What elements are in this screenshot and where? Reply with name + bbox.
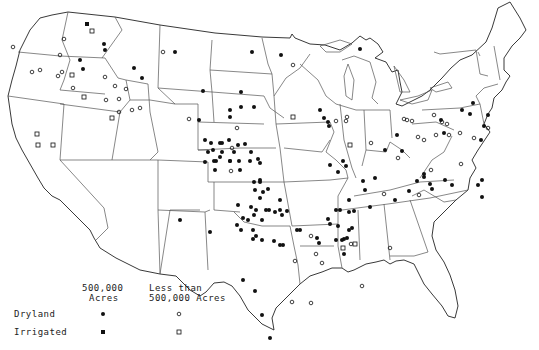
dryland-large-marker-icon [328, 163, 332, 167]
dryland-large-marker-icon [422, 172, 426, 176]
dryland-large-marker-icon [361, 179, 365, 183]
irrigated-small-marker-icon [348, 143, 352, 147]
dryland-small-marker-icon [360, 284, 364, 288]
dryland-small-marker-icon [434, 133, 438, 137]
dryland-large-marker-icon [278, 198, 282, 202]
dryland-large-marker-icon [350, 226, 354, 230]
dryland-small-marker-icon [417, 193, 421, 197]
dryland-large-marker-icon [327, 124, 331, 128]
dryland-small-marker-icon [320, 261, 324, 265]
dryland-large-marker-icon [326, 217, 330, 221]
legend-filled-square-icon [101, 330, 105, 334]
dryland-large-marker-icon [347, 210, 351, 214]
legend-filled-circle-icon [101, 312, 105, 316]
dryland-small-marker-icon [382, 192, 386, 196]
dryland-small-marker-icon [396, 156, 400, 160]
dryland-large-marker-icon [336, 224, 340, 228]
dryland-large-marker-icon [334, 208, 338, 212]
dryland-small-marker-icon [445, 122, 449, 126]
dryland-large-marker-icon [415, 179, 419, 183]
irrigated-small-marker-icon [353, 242, 357, 246]
dryland-large-marker-icon [260, 313, 264, 317]
dryland-small-marker-icon [416, 135, 420, 139]
dryland-small-marker-icon [472, 136, 476, 140]
dryland-small-marker-icon [309, 301, 313, 305]
dryland-large-marker-icon [264, 208, 268, 212]
dryland-large-marker-icon [281, 243, 285, 247]
dryland-large-marker-icon [342, 252, 346, 256]
dryland-large-marker-icon [261, 190, 265, 194]
dryland-small-marker-icon [290, 300, 294, 304]
dryland-large-marker-icon [368, 205, 372, 209]
dryland-small-marker-icon [458, 131, 462, 135]
dryland-large-marker-icon [443, 178, 447, 182]
dryland-small-marker-icon [345, 115, 349, 119]
dryland-small-marker-icon [291, 63, 295, 67]
legend-symbols [0, 0, 260, 350]
legend-open-circle-icon [177, 312, 181, 316]
dryland-large-marker-icon [471, 101, 475, 105]
dryland-small-marker-icon [293, 259, 297, 263]
dryland-large-marker-icon [328, 222, 332, 226]
dryland-large-marker-icon [460, 108, 464, 112]
dryland-large-marker-icon [476, 183, 480, 187]
dryland-large-marker-icon [266, 187, 270, 191]
legend: 500,000 Acres Less than 500,000 Acres Dr… [0, 0, 260, 350]
dryland-large-marker-icon [468, 112, 472, 116]
dryland-large-marker-icon [272, 239, 276, 243]
dryland-large-marker-icon [260, 218, 264, 222]
dryland-large-marker-icon [400, 149, 404, 153]
irrigated-small-marker-icon [291, 115, 295, 119]
dryland-large-marker-icon [317, 241, 321, 245]
dryland-large-marker-icon [393, 198, 397, 202]
dryland-small-marker-icon [429, 168, 433, 172]
dryland-small-marker-icon [349, 242, 353, 246]
dryland-large-marker-icon [326, 120, 330, 124]
dryland-small-marker-icon [334, 119, 338, 123]
dryland-small-marker-icon [369, 141, 373, 145]
dryland-large-marker-icon [363, 188, 367, 192]
dryland-large-marker-icon [268, 336, 272, 340]
dryland-small-marker-icon [344, 119, 348, 123]
dryland-small-marker-icon [447, 133, 451, 137]
dryland-large-marker-icon [383, 148, 387, 152]
dryland-large-marker-icon [352, 209, 356, 213]
dryland-small-marker-icon [314, 252, 318, 256]
dryland-small-marker-icon [410, 119, 414, 123]
dryland-small-marker-icon [432, 113, 436, 117]
dryland-large-marker-icon [334, 238, 338, 242]
dryland-large-marker-icon [428, 182, 432, 186]
dryland-large-marker-icon [482, 124, 486, 128]
legend-open-square-icon [177, 330, 181, 334]
dryland-large-marker-icon [280, 213, 284, 217]
dryland-large-marker-icon [315, 236, 319, 240]
dryland-large-marker-icon [322, 116, 326, 120]
dryland-large-marker-icon [373, 176, 377, 180]
dryland-large-marker-icon [395, 133, 399, 137]
dryland-large-marker-icon [318, 108, 322, 112]
dryland-large-marker-icon [480, 195, 484, 199]
dryland-large-marker-icon [486, 113, 490, 117]
dryland-large-marker-icon [479, 138, 483, 142]
dryland-large-marker-icon [407, 189, 411, 193]
dryland-large-marker-icon [260, 238, 264, 242]
dryland-large-marker-icon [450, 183, 454, 187]
dryland-large-marker-icon [340, 238, 344, 242]
dryland-large-marker-icon [344, 164, 348, 168]
dryland-large-marker-icon [336, 170, 340, 174]
dryland-large-marker-icon [273, 210, 277, 214]
dryland-small-marker-icon [309, 234, 313, 238]
dryland-large-marker-icon [358, 47, 362, 51]
dryland-large-marker-icon [279, 53, 283, 57]
dryland-large-marker-icon [278, 208, 282, 212]
dryland-large-marker-icon [430, 187, 434, 191]
dryland-large-marker-icon [347, 198, 351, 202]
dryland-large-marker-icon [285, 209, 289, 213]
dryland-small-marker-icon [422, 138, 426, 142]
dryland-large-marker-icon [298, 228, 302, 232]
dryland-large-marker-icon [338, 208, 342, 212]
dryland-large-marker-icon [442, 131, 446, 135]
dryland-large-marker-icon [341, 159, 345, 163]
dryland-large-marker-icon [480, 178, 484, 182]
dryland-small-marker-icon [459, 162, 463, 166]
